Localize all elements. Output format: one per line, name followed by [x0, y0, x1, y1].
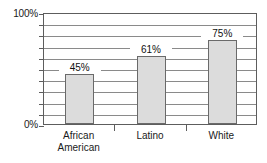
bar [65, 74, 94, 124]
x-axis-category-label: White [186, 130, 256, 142]
y-axis-tick [39, 115, 44, 116]
y-axis-tick [39, 70, 44, 71]
y-axis-label-100: 100% [0, 9, 38, 19]
bar-value-label: 45% [59, 63, 101, 73]
y-axis-tick [39, 36, 44, 37]
bar [137, 56, 166, 124]
x-axis-category-label: Latino [115, 130, 185, 142]
bar [208, 40, 237, 124]
gridline [44, 25, 256, 26]
x-axis-category-label: African American [44, 130, 114, 154]
y-axis-tick [39, 104, 44, 105]
bar-value-label: 61% [130, 45, 172, 55]
y-axis-tick [39, 126, 44, 127]
bar-chart: 100% 0% 45%61%75% African AmericanLatino… [0, 0, 267, 163]
bar-value-label: 75% [201, 29, 243, 39]
y-axis-tick [39, 81, 44, 82]
y-axis-label-0: 0% [0, 120, 38, 130]
y-axis-tick [39, 25, 44, 26]
y-axis-tick [39, 59, 44, 60]
y-axis-tick [39, 14, 44, 15]
y-axis-tick [39, 92, 44, 93]
y-axis-tick [39, 48, 44, 49]
